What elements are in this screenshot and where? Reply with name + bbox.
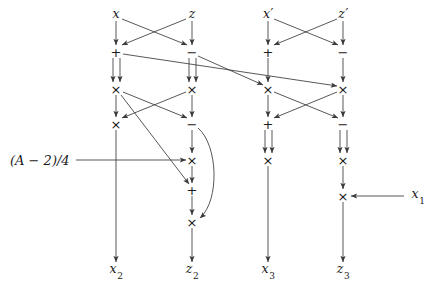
circuit-diagram: x z x′ z′ + − + − × × × × × − + − × × × …	[0, 0, 437, 288]
output-label-x3: x3	[262, 263, 275, 279]
operator-times-col2-row4: ×	[187, 154, 198, 167]
constant-a-minus-2-over-4: (A − 2)/4	[10, 154, 70, 167]
operator-times-col1-row2: ×	[111, 83, 122, 96]
operator-plus-col1-row1: +	[111, 46, 122, 59]
edge-minus1-to-mul3	[198, 56, 263, 85]
input-label-z: z	[189, 8, 196, 21]
operator-minus-col2-row3: −	[187, 118, 198, 131]
operator-plus-col2-row5: +	[187, 184, 198, 197]
operator-times-col1-row3: ×	[111, 118, 122, 131]
output-label-z2: z2	[186, 263, 198, 279]
output-label-z3: z3	[337, 263, 349, 279]
operator-minus-col4-row3: −	[338, 118, 349, 131]
operator-times-col2-row2: ×	[187, 83, 198, 96]
circuit-edges-canvas	[0, 0, 437, 288]
constant-x1: x1	[412, 188, 425, 204]
operator-times-col3-row2: ×	[263, 83, 274, 96]
edge-mul1-to-plus3	[121, 95, 189, 184]
operator-times-col4-row4: ×	[338, 154, 349, 167]
operator-times-col3-row4: ×	[263, 154, 274, 167]
output-label-x2: x2	[110, 263, 123, 279]
operator-minus-col4-row1: −	[338, 46, 349, 59]
operator-minus-col2-row1: −	[187, 46, 198, 59]
input-label-z-prime: z′	[338, 8, 347, 21]
input-label-x-prime: x′	[263, 8, 273, 21]
input-label-x: x	[112, 8, 119, 21]
operator-plus-col3-row3: +	[263, 118, 274, 131]
operator-plus-col3-row1: +	[263, 46, 274, 59]
operator-times-col4-row5: ×	[338, 190, 349, 203]
edge-minus2-curve-to-mul5	[198, 128, 214, 218]
operator-times-col4-row2: ×	[338, 83, 349, 96]
operator-times-col2-row6: ×	[187, 216, 198, 229]
